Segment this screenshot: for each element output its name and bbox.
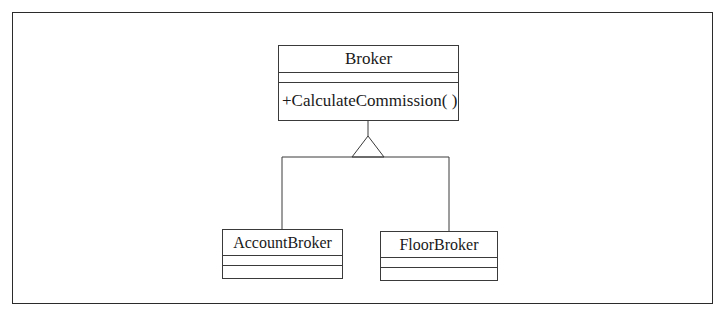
class-name: Broker xyxy=(279,46,458,73)
class-floorbroker: FloorBroker xyxy=(380,231,498,281)
class-operations xyxy=(381,268,497,280)
class-name: FloorBroker xyxy=(381,232,497,258)
class-accountbroker: AccountBroker xyxy=(222,229,343,279)
class-operations xyxy=(223,266,342,278)
class-attributes xyxy=(223,256,342,266)
class-broker: Broker +CalculateCommission( ) xyxy=(278,45,459,121)
class-name: AccountBroker xyxy=(223,230,342,256)
class-attributes xyxy=(381,258,497,268)
class-operation: +CalculateCommission( ) xyxy=(279,83,458,120)
class-attributes xyxy=(279,73,458,83)
